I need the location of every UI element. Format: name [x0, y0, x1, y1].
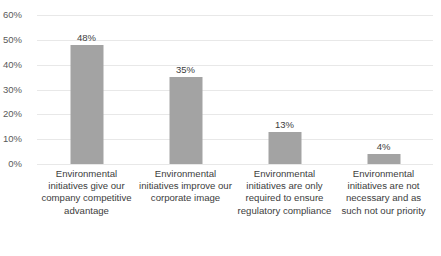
bar-value-1: 48% — [77, 32, 96, 43]
x-axis-label-3: Environmental initiatives are only requi… — [235, 168, 334, 217]
bar-4[interactable] — [367, 154, 400, 164]
bar-3[interactable] — [268, 132, 301, 164]
bar-slot-1: 48% — [37, 15, 136, 164]
x-axis-label-1: Environmental initiatives give our compa… — [37, 168, 136, 217]
bar-slot-4: 4% — [334, 15, 433, 164]
y-axis-tick-10: 10% — [0, 134, 22, 144]
bar-slot-2: 35% — [136, 15, 235, 164]
bar-value-2: 35% — [176, 64, 195, 75]
bar-chart: 60% 50% 40% 30% 20% 10% 0% 48% 35% 13% 4… — [0, 0, 441, 256]
bar-slot-3: 13% — [235, 15, 334, 164]
x-axis-category-labels: Environmental initiatives give our compa… — [37, 168, 433, 254]
gridline-0 — [37, 164, 433, 165]
x-axis-label-2: Environmental initiatives improve our co… — [136, 168, 235, 205]
bar-1[interactable] — [70, 45, 103, 164]
y-axis-tick-50: 50% — [0, 35, 22, 45]
plot-area: 60% 50% 40% 30% 20% 10% 0% 48% 35% 13% 4… — [37, 15, 433, 164]
bar-value-4: 4% — [377, 141, 391, 152]
y-axis-tick-20: 20% — [0, 109, 22, 119]
y-axis-tick-60: 60% — [0, 10, 22, 20]
y-axis-tick-40: 40% — [0, 60, 22, 70]
bar-2[interactable] — [169, 77, 202, 164]
y-axis-tick-0: 0% — [0, 159, 22, 169]
y-axis-tick-30: 30% — [0, 85, 22, 95]
bar-value-3: 13% — [275, 119, 294, 130]
x-axis-label-4: Environmental initiatives are not necess… — [334, 168, 433, 217]
